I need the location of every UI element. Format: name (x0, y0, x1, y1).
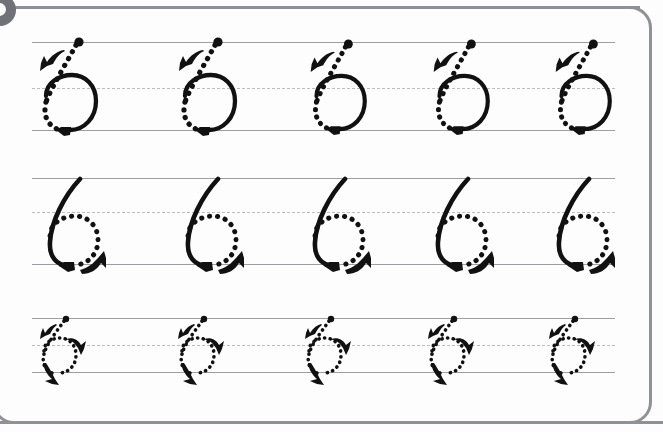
practice-row-3 (0, 0, 663, 432)
traceable-glyph-six[interactable] (171, 311, 247, 385)
tracing-worksheet-page: Number 6 Tracing Practice (0, 0, 663, 432)
traceable-glyph-six[interactable] (542, 311, 618, 385)
traceable-glyph-six[interactable] (298, 311, 374, 385)
traceable-glyph-six[interactable] (421, 311, 497, 385)
traceable-glyph-six[interactable] (33, 311, 109, 385)
